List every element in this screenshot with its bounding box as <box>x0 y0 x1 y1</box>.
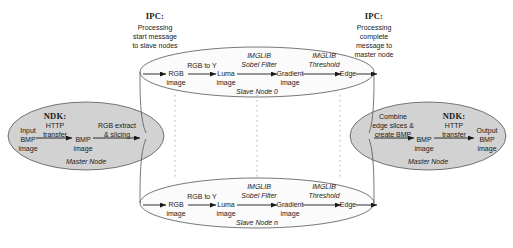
ipc-right-line1: Processing <box>357 24 392 32</box>
slave0-d4: Edge <box>340 70 356 78</box>
slaven-op3-line2: Threshold <box>308 192 339 200</box>
slave0-d1-line2: image <box>166 79 185 87</box>
master-out-mid-line1: BMP <box>416 136 431 144</box>
slaven-d3-line2: image <box>280 210 299 218</box>
master-out-output-line2: BMP <box>479 136 494 144</box>
master-out-op-line1: Combine <box>379 113 407 121</box>
slave0-op3-line2: Threshold <box>308 61 339 69</box>
slaven-d2-line1: Luma <box>217 201 235 209</box>
slave0-d2-line2: image <box>216 79 235 87</box>
slave0-d1-line1: RGB <box>168 70 183 78</box>
slaven-op2-line2: Sobel Filter <box>241 192 276 200</box>
slaven-op3-line1: IMGLIB <box>312 183 336 191</box>
slave0-d3-line1: Gradient <box>277 70 304 78</box>
slaven-d4: Edge <box>340 201 356 209</box>
slaven-op2-line1: IMGLIB <box>247 183 271 191</box>
master-out-node-name: Master Node <box>408 158 448 166</box>
slaven-d1-line1: RGB <box>168 201 183 209</box>
master-in-op-line1: RGB extract <box>98 122 136 130</box>
ipc-left-line3: to slave nodes <box>132 42 177 50</box>
slaven-d2-line2: image <box>216 210 235 218</box>
master-in-mid-line1: BMP <box>75 136 90 144</box>
master-out-mid-line2: image <box>414 145 433 153</box>
ipc-left-line2: start message <box>133 33 177 41</box>
master-out-output-line3: image <box>477 145 496 153</box>
slave0-op1: RGB to Y <box>187 62 216 70</box>
master-out-op-line3: create BMP <box>375 131 412 139</box>
master-in-input-line3: image <box>18 145 37 153</box>
slave0-d3-line2: image <box>280 79 299 87</box>
slave-node-0-name: Slave Node 0 <box>236 88 278 96</box>
ipc-right-line4: master node <box>355 51 394 59</box>
master-in-ndk-line1: HTTP <box>46 122 64 130</box>
ipc-left-line1: Processing <box>138 24 173 32</box>
master-in-ndk-line2: transfer <box>43 131 67 139</box>
slave-node-n-name: Slave Node n <box>236 219 278 227</box>
master-in-op-line2: & slicing <box>104 131 130 139</box>
slave0-op2-line1: IMGLIB <box>247 52 271 60</box>
slaven-d3-line1: Gradient <box>277 201 304 209</box>
slave0-op2-line2: Sobel Filter <box>241 61 276 69</box>
master-in-input-line1: Input <box>20 127 36 135</box>
ipc-right-line2: complete <box>360 33 388 41</box>
ipc-right-title: IPC: <box>365 12 383 22</box>
slave-node-ellipsis <box>175 95 340 180</box>
master-in-ndk-title: NDK: <box>44 112 67 122</box>
master-in-mid-line2: image <box>73 145 92 153</box>
slaven-d1-line2: image <box>166 210 185 218</box>
master-in-node-name: Master Node <box>66 158 106 166</box>
master-out-output-line1: Output <box>476 127 497 135</box>
master-in-input-line2: BMP <box>20 136 35 144</box>
slave0-op3-line1: IMGLIB <box>312 52 336 60</box>
master-out-ndk-title: NDK: <box>443 112 466 122</box>
slave0-d2-line1: Luma <box>217 70 235 78</box>
master-out-ndk-line1: HTTP <box>445 122 463 130</box>
master-out-op-line2: edge slices & <box>372 122 414 130</box>
pipeline-diagram <box>0 0 513 248</box>
ipc-left-title: IPC: <box>146 12 164 22</box>
ipc-right-line3: message to <box>356 42 392 50</box>
master-out-ndk-line2: transfer <box>442 131 466 139</box>
slaven-op1: RGB to Y <box>187 193 216 201</box>
